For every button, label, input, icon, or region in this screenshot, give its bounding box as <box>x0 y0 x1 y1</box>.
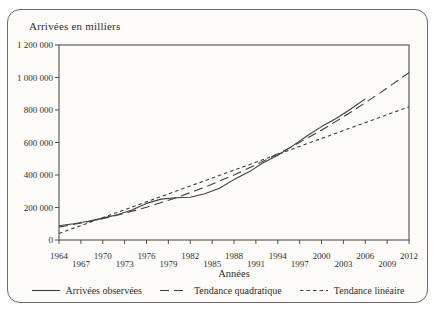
x-tick-label: 1964 <box>50 251 69 261</box>
x-tick-label: 2009 <box>378 259 397 269</box>
x-tick-label: 1982 <box>181 251 199 261</box>
x-tick-label: 1991 <box>247 259 265 269</box>
y-tick-label: 200 000 <box>24 203 54 213</box>
legend-item: Arrivées observées <box>31 285 142 296</box>
x-tick-label: 1997 <box>291 259 310 269</box>
x-tick-label: 1973 <box>116 259 135 269</box>
series-dash-short <box>59 107 409 234</box>
series-solid <box>59 99 365 226</box>
series-dash-long <box>59 73 409 227</box>
y-tick-label: 400 000 <box>24 170 54 180</box>
legend-label: Arrivées observées <box>66 285 142 296</box>
y-tick-label: 600 000 <box>24 138 54 148</box>
x-tick-label: 1994 <box>269 251 288 261</box>
x-tick-label: 2000 <box>313 251 332 261</box>
x-tick-label: 1967 <box>72 259 91 269</box>
legend-label: Tendance linéaire <box>334 285 405 296</box>
x-tick-label: 2012 <box>400 251 418 261</box>
chart-plot-area: 0200 000400 000600 000800 0001 000 0001 … <box>0 0 436 309</box>
legend-line-sample-icon <box>159 287 189 294</box>
y-tick-label: 1 200 000 <box>17 40 54 50</box>
chart-legend: Arrivées observéesTendance quadratiqueTe… <box>7 285 428 296</box>
legend-item: Tendance quadratique <box>159 285 282 296</box>
legend-line-sample-icon <box>31 287 61 294</box>
legend-item: Tendance linéaire <box>299 285 405 296</box>
plot-frame <box>59 45 409 240</box>
legend-line-sample-icon <box>299 287 329 294</box>
x-tick-label: 2003 <box>334 259 353 269</box>
y-tick-label: 0 <box>49 235 54 245</box>
x-tick-label: 2006 <box>356 251 375 261</box>
y-tick-label: 1 000 000 <box>17 73 54 83</box>
legend-label: Tendance quadratique <box>194 285 282 296</box>
x-tick-label: 1976 <box>138 251 157 261</box>
x-axis-label: Années <box>164 268 304 279</box>
x-tick-label: 1988 <box>225 251 244 261</box>
y-tick-label: 800 000 <box>24 105 54 115</box>
x-tick-label: 1970 <box>94 251 113 261</box>
x-tick-label: 1985 <box>203 259 222 269</box>
x-tick-label: 1979 <box>159 259 178 269</box>
